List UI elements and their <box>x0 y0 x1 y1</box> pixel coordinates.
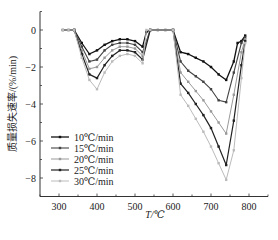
data-point-marker <box>88 68 90 70</box>
data-point-marker <box>217 162 219 164</box>
data-point-marker <box>103 49 105 51</box>
y-axis-title: 质量损失速率/(%/min) <box>6 56 19 152</box>
legend-marker <box>59 180 61 182</box>
data-point-marker <box>217 121 219 123</box>
data-point-marker <box>134 44 136 46</box>
legend-marker <box>59 147 61 149</box>
data-point-marker <box>111 44 113 46</box>
data-point-marker <box>225 179 227 181</box>
data-point-marker <box>240 77 242 79</box>
legend-marker <box>59 169 61 171</box>
data-point-marker <box>217 145 219 147</box>
data-point-marker <box>233 60 235 62</box>
data-point-marker <box>111 40 113 42</box>
data-point-marker <box>103 57 105 59</box>
data-point-marker <box>202 81 204 83</box>
legend: 10℃/min15℃/min20℃/min25℃/min30℃/min <box>51 132 114 187</box>
data-point-marker <box>88 53 90 55</box>
legend-label: 15℃/min <box>74 143 114 154</box>
data-point-marker <box>187 70 189 72</box>
data-point-marker <box>119 42 121 44</box>
data-point-marker <box>141 45 143 47</box>
data-point-marker <box>126 49 128 51</box>
data-point-marker <box>103 71 105 73</box>
data-point-marker <box>96 66 98 68</box>
data-point-marker <box>149 29 151 31</box>
data-point-marker <box>233 71 235 73</box>
data-point-marker <box>217 73 219 75</box>
legend-label: 10℃/min <box>74 132 114 143</box>
data-point-marker <box>134 51 136 53</box>
x-tick-label: 800 <box>242 201 257 212</box>
data-point-marker <box>111 55 113 57</box>
data-point-marker <box>119 55 121 57</box>
legend-label: 25℃/min <box>74 165 114 176</box>
data-point-marker <box>119 38 121 40</box>
data-point-marker <box>233 94 235 96</box>
data-point-marker <box>187 81 189 83</box>
legend-marker <box>59 158 61 160</box>
data-point-marker <box>141 62 143 64</box>
data-point-marker <box>240 51 242 53</box>
x-tick-label: 500 <box>128 201 143 212</box>
data-point-marker <box>210 127 212 129</box>
data-point-marker <box>88 79 90 81</box>
y-tick-label: −8 <box>25 173 36 184</box>
data-point-marker <box>145 29 147 31</box>
data-point-marker <box>111 49 113 51</box>
data-point-marker <box>225 79 227 81</box>
data-point-marker <box>126 42 128 44</box>
legend-label: 20℃/min <box>74 154 114 165</box>
data-point-marker <box>187 105 189 107</box>
data-point-marker <box>202 131 204 133</box>
data-point-marker <box>88 60 90 62</box>
data-point-marker <box>225 132 227 134</box>
data-point-marker <box>81 57 83 59</box>
y-tick-label: −2 <box>25 62 36 73</box>
data-point-marker <box>134 55 136 57</box>
y-tick-label: 0 <box>31 25 36 36</box>
data-point-marker <box>187 53 189 55</box>
data-point-marker <box>225 101 227 103</box>
data-point-marker <box>244 42 246 44</box>
data-point-marker <box>179 94 181 96</box>
data-point-marker <box>236 42 238 44</box>
data-point-marker <box>195 90 197 92</box>
data-point-marker <box>134 40 136 42</box>
data-point-marker <box>195 118 197 120</box>
data-point-marker <box>233 119 235 121</box>
x-tick-label: 300 <box>52 201 67 212</box>
data-point-marker <box>73 29 75 31</box>
series-2 <box>73 29 246 104</box>
data-point-marker <box>195 57 197 59</box>
x-tick-label: 400 <box>90 201 105 212</box>
data-point-marker <box>187 92 189 94</box>
data-point-marker <box>119 49 121 51</box>
data-point-marker <box>202 99 204 101</box>
data-point-marker <box>134 47 136 49</box>
data-point-marker <box>67 29 69 31</box>
data-point-marker <box>88 73 90 75</box>
data-point-marker <box>103 44 105 46</box>
series-3 <box>73 29 246 135</box>
data-point-marker <box>96 58 98 60</box>
data-point-marker <box>172 29 174 31</box>
x-tick-label: 600 <box>166 201 181 212</box>
data-point-marker <box>179 71 181 73</box>
data-point-marker <box>96 88 98 90</box>
x-tick-label: 700 <box>204 201 219 212</box>
data-point-marker <box>225 164 227 166</box>
y-tick-label: −4 <box>25 99 36 110</box>
data-point-marker <box>179 60 181 62</box>
series-line <box>74 30 245 102</box>
data-point-marker <box>210 66 212 68</box>
x-axis-title: T/℃ <box>145 209 165 220</box>
data-point-marker <box>96 77 98 79</box>
data-point-marker <box>62 29 64 31</box>
data-point-marker <box>111 60 113 62</box>
data-point-marker <box>126 45 128 47</box>
data-point-marker <box>233 149 235 151</box>
legend-label: 30℃/min <box>74 176 114 187</box>
data-point-marker <box>195 75 197 77</box>
data-point-marker <box>210 145 212 147</box>
